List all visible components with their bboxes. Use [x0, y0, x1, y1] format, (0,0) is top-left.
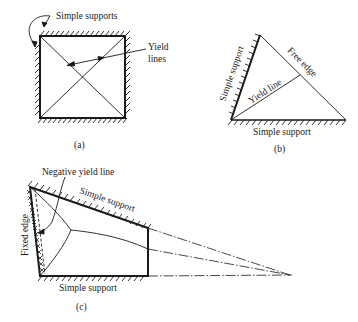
- panel-a-yield-label-1: Yield: [148, 42, 169, 52]
- panel-c-negative-yield-label: Negative yield line: [42, 167, 114, 177]
- panel-b-left-label: Simple support: [217, 44, 245, 102]
- panel-c-bottom-label: Simple support: [59, 283, 117, 293]
- yield-line-diagram: Simple supports Yield lines (a): [0, 0, 358, 322]
- panel-b-yield-label: Yield line: [247, 77, 284, 106]
- panel-a-yield-label-2: lines: [148, 54, 166, 64]
- panel-b-free-edge-label: Free edge: [286, 45, 319, 78]
- panel-c-caption: (c): [76, 302, 87, 313]
- panel-a-caption: (a): [74, 140, 85, 151]
- panel-a-yield-lines-leader: [67, 49, 146, 66]
- panel-b-caption: (b): [274, 144, 285, 155]
- panel-c-slab: [30, 187, 148, 276]
- panel-b: Simple support Free edge Yield line Simp…: [217, 34, 346, 155]
- panel-a-supports-label: Simple supports: [56, 11, 118, 21]
- panel-c-top-label: Simple support: [78, 185, 136, 213]
- panel-b-free-edge: [260, 35, 346, 120]
- panel-b-yield-line: [231, 75, 300, 120]
- panel-c-yield-lines: [30, 187, 148, 276]
- panel-a: Simple supports Yield lines (a): [29, 11, 169, 151]
- panel-c-extension-lines: [148, 228, 292, 276]
- panel-c-fixed-edge-label: Fixed edge: [20, 214, 30, 256]
- panel-c-negative-yield-leader: [38, 177, 65, 234]
- panel-c: Negative yield line Simple support Fixed…: [20, 167, 292, 313]
- panel-b-bottom-label: Simple support: [253, 127, 311, 137]
